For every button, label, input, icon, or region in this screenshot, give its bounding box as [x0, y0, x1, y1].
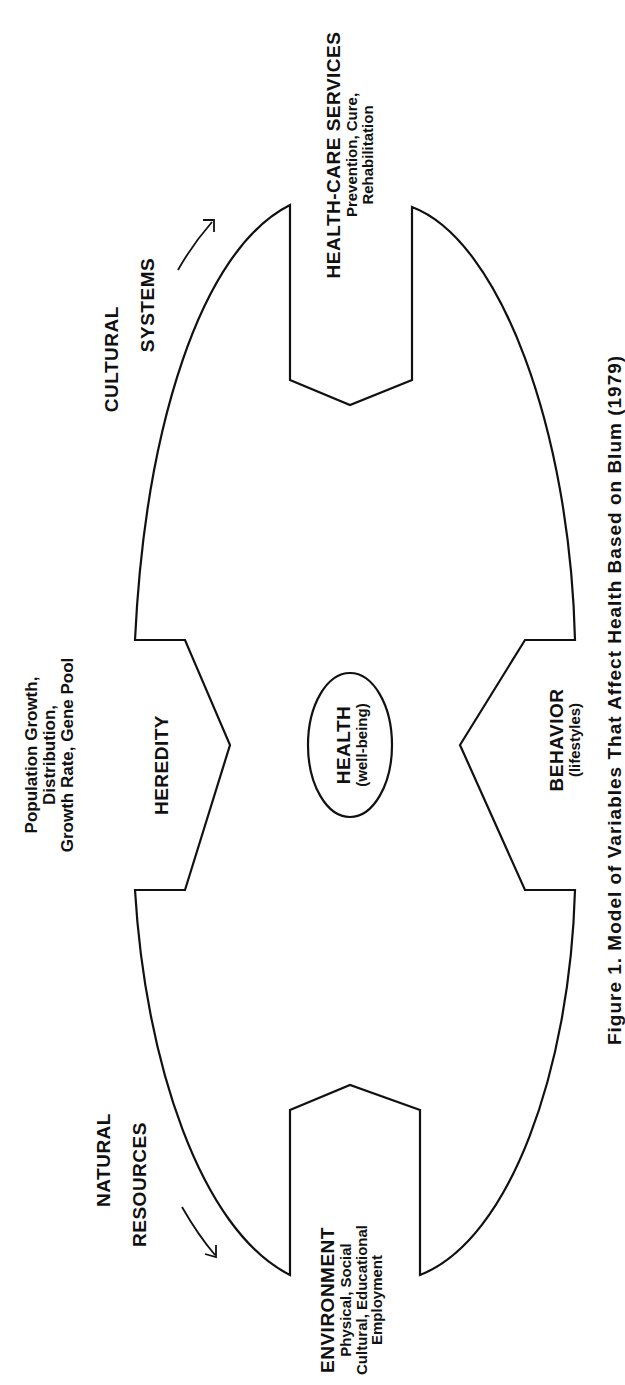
outer-population: Population Growth, Distribution, Growth … [23, 658, 77, 853]
factor-environment: ENVIRONMENT Physical, Social Cultural, E… [318, 1225, 385, 1375]
systems-label: SYSTEMS [130, 258, 166, 412]
health-care-services-line-1: Prevention, Cure, [344, 32, 360, 279]
population-line-2: Distribution, [41, 658, 59, 853]
health-care-services-label: HEALTH-CARE SERVICES [324, 32, 344, 279]
factor-heredity: HEREDITY [152, 715, 172, 815]
arrow-cultural-systems-icon [178, 220, 214, 270]
behavior-label: BEHAVIOR [547, 689, 567, 792]
figure-caption: Figure 1. Model of Variables That Affect… [605, 355, 625, 1045]
outer-natural-resources: NATURAL RESOURCES [86, 1113, 158, 1247]
environment-line-1: Physical, Social [338, 1225, 354, 1375]
factor-health-care-services: HEALTH-CARE SERVICES Prevention, Cure, R… [324, 32, 375, 279]
center-health: HEALTH (well-being) [334, 703, 370, 786]
outer-cultural-systems: CULTURAL SYSTEMS [94, 258, 166, 412]
environment-label: ENVIRONMENT [318, 1225, 338, 1375]
behavior-line-1: (lifestyles) [567, 689, 583, 792]
heredity-label: HEREDITY [152, 715, 172, 815]
natural-label: NATURAL [86, 1113, 122, 1247]
resources-label: RESOURCES [122, 1113, 158, 1247]
environment-line-3: Employment [370, 1225, 386, 1375]
population-line-1: Population Growth, [23, 658, 41, 853]
arrow-natural-resources-icon [182, 1207, 216, 1257]
population-line-3: Growth Rate, Gene Pool [59, 658, 77, 853]
cultural-label: CULTURAL [94, 258, 130, 412]
environment-line-2: Cultural, Educational [354, 1225, 370, 1375]
health-sublabel: (well-being) [354, 703, 370, 786]
health-label: HEALTH [334, 703, 354, 786]
factor-behavior: BEHAVIOR (lifestyles) [547, 689, 583, 792]
health-care-services-line-2: Rehabilitation [360, 32, 376, 279]
